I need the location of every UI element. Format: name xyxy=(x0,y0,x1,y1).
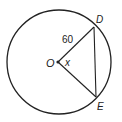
center-label: O xyxy=(46,57,55,69)
center-point xyxy=(56,60,59,63)
radius-length-label: 60 xyxy=(62,34,74,45)
chord-de xyxy=(94,27,96,97)
circle-diagram: O D E 60 x xyxy=(0,0,122,122)
angle-x-label: x xyxy=(64,57,71,68)
radius-oe xyxy=(58,62,96,97)
point-d-label: D xyxy=(96,14,103,25)
point-e-label: E xyxy=(97,101,104,112)
diagram-canvas: O D E 60 x xyxy=(0,0,122,122)
